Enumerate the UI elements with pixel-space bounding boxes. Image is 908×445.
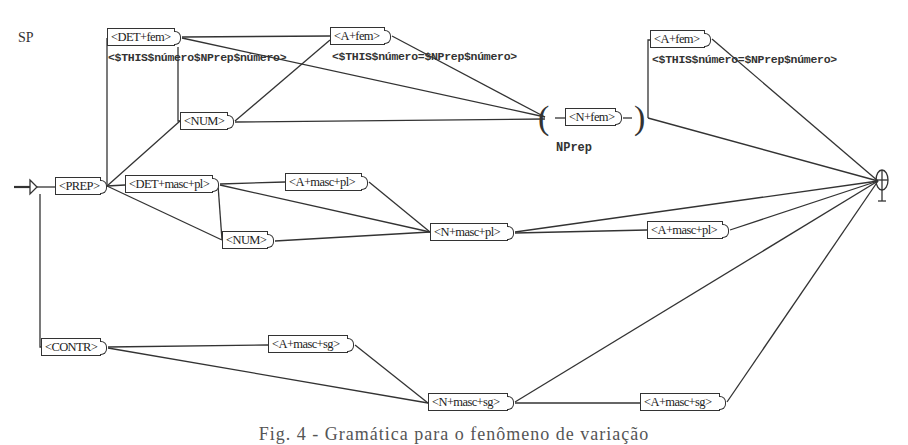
constraint-annotation-3: <$THIS$número=$NPrep$número> xyxy=(652,53,837,66)
node-num-lower[interactable]: <NUM> xyxy=(222,231,268,249)
subgraph-label: NPrep xyxy=(556,141,592,155)
node-contr[interactable]: <CONTR> xyxy=(41,338,101,356)
figure-caption: Fig. 4 - Gramática para o fenômeno de va… xyxy=(0,424,908,445)
node-n-masc-pl[interactable]: <N+masc+pl> xyxy=(430,223,508,241)
node-a-masc-sg-right[interactable]: <A+masc+sg> xyxy=(640,393,720,411)
node-n-masc-sg[interactable]: <N+masc+sg> xyxy=(428,393,508,411)
node-a-masc-pl-left[interactable]: <A+masc+pl> xyxy=(285,173,362,191)
node-det-masc-pl[interactable]: <DET+masc+pl> xyxy=(125,175,213,193)
node-a-fem-right[interactable]: <A+fem> xyxy=(650,30,705,48)
node-prep[interactable]: <PREP> xyxy=(55,177,101,195)
node-a-masc-sg-left[interactable]: <A+masc+sg> xyxy=(268,335,348,353)
node-a-masc-pl-right[interactable]: <A+masc+pl> xyxy=(647,221,723,239)
